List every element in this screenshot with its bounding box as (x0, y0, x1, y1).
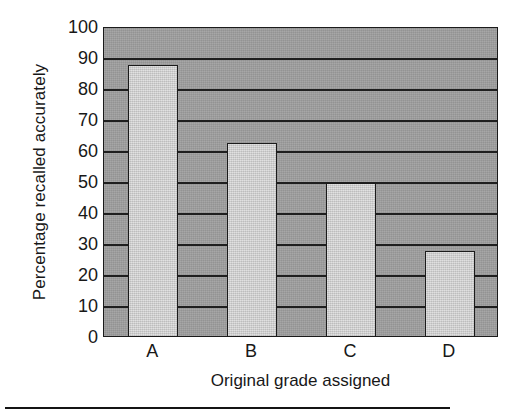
bar-B (227, 143, 277, 337)
bar-C (326, 183, 376, 337)
x-tick-label-D: D (399, 342, 498, 360)
y-axis-tick-labels: 0102030405060708090100 (50, 27, 98, 337)
y-tick-label-90: 90 (50, 49, 98, 67)
x-tick-label-C: C (301, 342, 400, 360)
gridline-90 (104, 58, 497, 60)
y-tick-label-70: 70 (50, 111, 98, 129)
y-tick-label-20: 20 (50, 266, 98, 284)
bar-A (128, 65, 178, 337)
x-tick-label-B: B (202, 342, 301, 360)
x-axis-title: Original grade assigned (103, 371, 498, 391)
y-axis-title: Percentage recalled accurately (30, 22, 50, 342)
y-tick-label-10: 10 (50, 297, 98, 315)
y-tick-label-0: 0 (50, 328, 98, 346)
x-tick-label-A: A (103, 342, 202, 360)
y-tick-label-30: 30 (50, 235, 98, 253)
x-axis-tick-labels: ABCD (103, 342, 498, 368)
bottom-divider-rule (5, 407, 450, 409)
plot-area (103, 27, 498, 337)
y-tick-label-60: 60 (50, 142, 98, 160)
y-tick-label-80: 80 (50, 80, 98, 98)
bar-chart-figure: Percentage recalled accurately 010203040… (0, 0, 518, 417)
y-tick-label-100: 100 (50, 18, 98, 36)
y-tick-label-40: 40 (50, 204, 98, 222)
y-tick-label-50: 50 (50, 173, 98, 191)
bar-D (425, 251, 475, 337)
